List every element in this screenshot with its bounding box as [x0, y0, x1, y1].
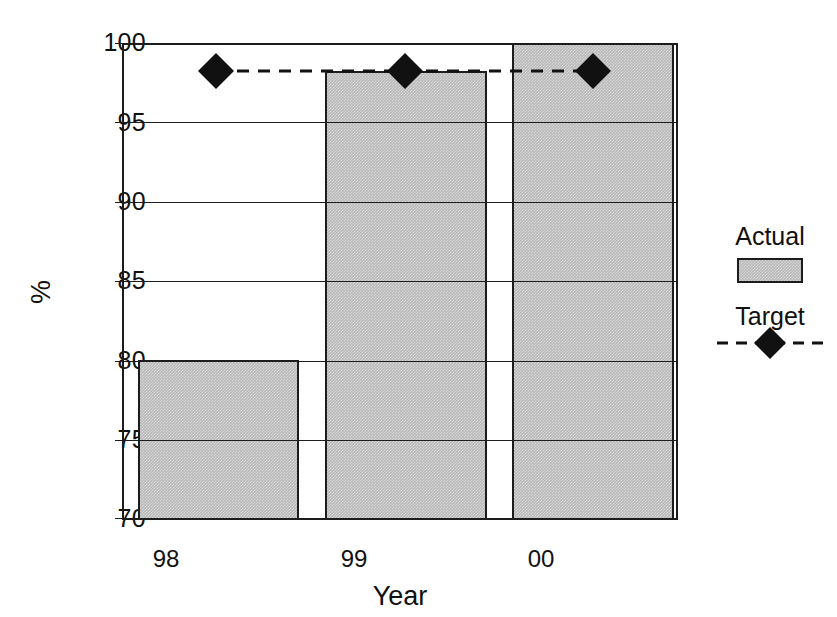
x-axis-title: Year: [300, 583, 500, 610]
y-tickmark-100: [115, 43, 124, 44]
x-tick-label-98: 98: [106, 547, 226, 571]
gridline-80-overlay: [124, 361, 676, 362]
legend-swatch-actual: [737, 258, 803, 283]
x-tick-label-99: 99: [294, 547, 414, 571]
y-axis-title: %: [28, 268, 56, 304]
plot-area: [122, 43, 678, 520]
gridline-85-overlay: [124, 281, 676, 282]
y-tickmark-90: [115, 202, 124, 203]
y-tickmark-95: [115, 122, 124, 123]
y-tickmark-75: [115, 440, 124, 441]
gridline-90-overlay: [124, 202, 676, 203]
legend-target-diamond: [754, 327, 786, 359]
y-tickmark-80: [115, 361, 124, 362]
x-tick-label-00: 00: [481, 547, 601, 571]
gridline-75-overlay: [124, 440, 676, 441]
y-tickmark-85: [115, 281, 124, 282]
legend-label-actual: Actual: [700, 224, 837, 249]
gridline-95-overlay: [124, 122, 676, 123]
chart-container: % 100 95 90 85 80 75 70: [0, 0, 837, 617]
y-tickmark-70: [115, 518, 124, 519]
bar-99: [325, 71, 487, 520]
legend-marker-target: [715, 325, 825, 361]
